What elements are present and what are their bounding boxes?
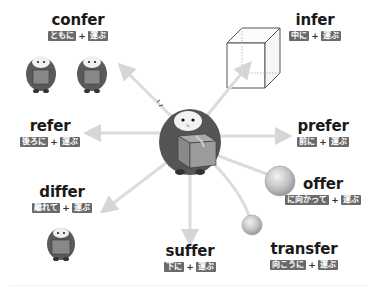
word-differ: differ 離れて + 運ぶ [26, 184, 98, 213]
word-infer: infer 中に + 運ぶ [282, 12, 348, 41]
word-refer: refer 後ろに + 運ぶ [14, 118, 86, 147]
word-meaning: 離れて + 運ぶ [26, 203, 98, 213]
penguin-alone-icon [47, 228, 75, 261]
word-meaning: 向こうに + 運ぶ [262, 260, 346, 270]
word-transfer: transfer 向こうに + 運ぶ [262, 241, 346, 270]
arrow-offer [216, 155, 272, 176]
prefix-tag: ともに [48, 31, 76, 41]
plus-sign: + [186, 262, 194, 272]
word-english: offer [280, 176, 366, 193]
diagram-stage: confer ともに + 運ぶ infer 中に + 運ぶ refer 後ろに … [0, 0, 378, 291]
cube-icon [227, 28, 280, 88]
word-english: suffer [158, 243, 222, 260]
plus-sign: + [311, 31, 319, 41]
word-meaning: ともに + 運ぶ [38, 31, 118, 41]
prefix-tag: 下に [164, 262, 184, 272]
plus-sign: + [78, 31, 86, 41]
plus-sign: + [50, 137, 58, 147]
plus-sign: + [308, 260, 316, 270]
plus-sign: + [319, 137, 327, 147]
root-tag: 運ぶ [60, 137, 80, 147]
penguin-pair-icon [26, 56, 107, 93]
word-meaning: 中に + 運ぶ [282, 31, 348, 41]
sphere-transfer-icon [242, 215, 262, 235]
root-tag: 運ぶ [196, 262, 216, 272]
plus-sign: + [331, 195, 339, 205]
word-english: differ [26, 184, 98, 201]
word-prefer: prefer 前に + 運ぶ [288, 118, 358, 147]
arrow-transfer [212, 162, 250, 218]
root-tag: 運ぶ [88, 31, 108, 41]
root-tag: 運ぶ [318, 260, 338, 270]
root-tag: 運ぶ [72, 203, 92, 213]
plus-sign: + [62, 203, 70, 213]
word-english: refer [14, 118, 86, 135]
prefix-tag: 離れて [32, 203, 60, 213]
word-suffer: suffer 下に + 運ぶ [158, 243, 222, 272]
root-tag: 運ぶ [321, 31, 341, 41]
prefix-tag: 中に [289, 31, 309, 41]
prefix-tag: 前に [297, 137, 317, 147]
root-tag: 運ぶ [329, 137, 349, 147]
word-meaning: に向かって + 運ぶ [280, 195, 366, 205]
word-offer: offer に向かって + 運ぶ [280, 176, 366, 205]
prefix-tag: 後ろに [20, 137, 48, 147]
word-english: confer [38, 12, 118, 29]
word-confer: confer ともに + 運ぶ [38, 12, 118, 41]
word-english: transfer [262, 241, 346, 258]
word-meaning: 下に + 運ぶ [158, 262, 222, 272]
root-tag: 運ぶ [341, 195, 361, 205]
word-english: prefer [288, 118, 358, 135]
arrow-differ [107, 163, 166, 208]
word-meaning: 後ろに + 運ぶ [14, 137, 86, 147]
prefix-tag: 向こうに [270, 260, 306, 270]
prefix-tag: に向かって [285, 195, 329, 205]
word-meaning: 前に + 運ぶ [288, 137, 358, 147]
word-english: infer [282, 12, 348, 29]
bottom-divider [10, 285, 368, 286]
arrow-confer [124, 69, 175, 120]
arrow-infer [205, 68, 246, 118]
